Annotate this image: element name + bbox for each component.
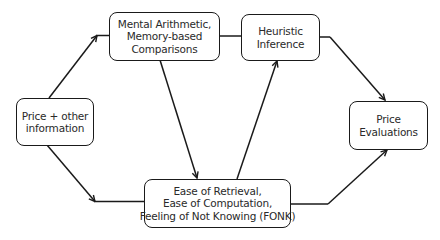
node-label-line: Price + other: [22, 110, 88, 123]
node-label-line: Comparisons: [131, 43, 197, 56]
node-label-line: Mental Arithmetic,: [118, 18, 211, 31]
edge-price-info-to-ease-fonk: [47, 145, 144, 202]
node-label-line: Heuristic: [258, 25, 303, 38]
node-label-line: information: [26, 122, 84, 135]
node-label-line: Feeling of Not Knowing (FONK): [140, 210, 296, 223]
node-mental-arithmetic: Mental Arithmetic, Memory-based Comparis…: [109, 12, 220, 61]
node-label-line: Memory-based: [127, 30, 203, 43]
edge-ease-fonk-to-heuristic-inference: [237, 61, 277, 179]
edge-ease-fonk-to-price-evaluations: [290, 150, 387, 204]
node-label-line: Evaluations: [359, 126, 418, 139]
edge-heuristic-inference-to-price-evaluations: [319, 37, 385, 100]
edge-mental-arithmetic-to-ease-fonk: [160, 60, 197, 178]
node-label-line: Ease of Retrieval,: [173, 185, 261, 198]
node-price-information: Price + other information: [16, 98, 94, 146]
edge-price-info-to-mental-arithmetic: [49, 36, 109, 99]
node-label-line: Ease of Computation,: [163, 197, 272, 210]
node-price-evaluations: Price Evaluations: [349, 101, 428, 150]
node-ease-fonk: Ease of Retrieval, Ease of Computation, …: [144, 179, 291, 228]
node-label-line: Price: [376, 113, 401, 126]
price-evaluation-flow-diagram: Price + other information Mental Arithme…: [0, 0, 440, 240]
node-heuristic-inference: Heuristic Inference: [241, 14, 320, 61]
node-label-line: Inference: [257, 38, 305, 51]
